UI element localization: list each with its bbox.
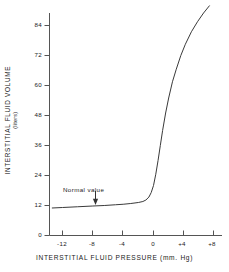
axis-lines (50, 13, 223, 236)
normal-value-arrow-icon (93, 191, 98, 205)
data-curve (52, 6, 210, 209)
x-axis-ticks (63, 231, 214, 236)
y-axis-ticks (45, 26, 50, 236)
chart-plot-area (0, 0, 229, 272)
interstitial-fluid-volume-chart: INTERSTITIAL FLUID VOLUME (liters) 84 72… (0, 0, 229, 272)
